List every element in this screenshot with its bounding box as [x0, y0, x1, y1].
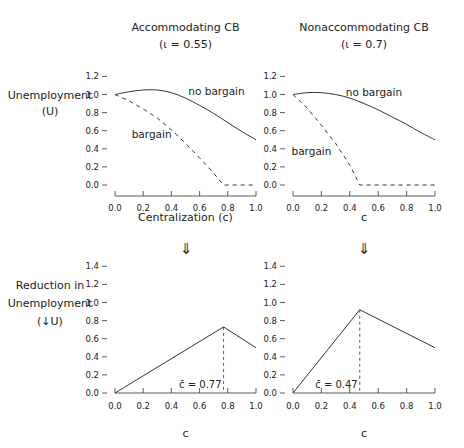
x-axis-label: c — [361, 427, 367, 440]
y-tick-label: 1.2 — [85, 71, 99, 81]
figure: Accommodating CB(ι = 0.55)0.00.20.40.60.… — [0, 0, 464, 448]
x-tick-label: 0.0 — [286, 401, 300, 411]
y-tick-label: 1.2 — [263, 71, 277, 81]
y-tick-label: 0.4 — [85, 144, 99, 154]
series-no-bargain — [293, 92, 435, 139]
y-tick-label: 0.8 — [263, 108, 277, 118]
x-tick-label: 0.6 — [371, 401, 385, 411]
y-tick-label: 0.2 — [263, 370, 277, 380]
y-tick-label: 1.2 — [85, 279, 99, 289]
series-label: no bargain — [346, 86, 402, 98]
y-tick-label: 0.8 — [263, 316, 277, 326]
y-tick-label: 0.0 — [85, 388, 99, 398]
y-tick-label: 0.8 — [85, 316, 99, 326]
y-tick-label: 0.6 — [263, 334, 277, 344]
y-tick-label: 0.4 — [85, 352, 99, 362]
row-label-top: (U) — [42, 105, 59, 118]
y-tick-label: 0.0 — [263, 180, 277, 190]
row-label-bottom: Reduction in — [16, 279, 85, 292]
x-axis-label: Centralization (c) — [138, 211, 233, 224]
y-tick-label: 0.6 — [85, 126, 99, 136]
x-tick-label: 0.2 — [315, 203, 329, 213]
x-tick-label: 1.0 — [249, 203, 263, 213]
y-tick-label: 1.2 — [263, 279, 277, 289]
x-tick-label: 0.4 — [343, 203, 357, 213]
y-tick-label: 0.2 — [85, 162, 99, 172]
y-tick-label: 1.0 — [263, 90, 277, 100]
y-tick-label: 0.0 — [85, 180, 99, 190]
x-tick-label: 0.8 — [400, 401, 414, 411]
x-tick-label: 0.0 — [108, 203, 122, 213]
x-tick-label: 1.0 — [428, 401, 442, 411]
series-label: no bargain — [188, 85, 244, 97]
y-tick-label: 1.0 — [263, 298, 277, 308]
x-tick-label: 1.0 — [428, 203, 442, 213]
down-arrow-icon: ⇓ — [180, 240, 193, 258]
row-label-bottom: Unemployment — [8, 297, 93, 310]
threshold-label: c̄ = 0.47 — [315, 379, 358, 390]
x-tick-label: 0.0 — [286, 203, 300, 213]
x-tick-label: 0.4 — [343, 401, 357, 411]
y-tick-label: 0.0 — [263, 388, 277, 398]
y-tick-label: 1.4 — [263, 261, 277, 271]
series-label: bargain — [292, 145, 332, 157]
chart-title: Accommodating CB — [131, 21, 239, 34]
x-tick-label: 0.2 — [315, 401, 329, 411]
row-label-top: Unemployment — [8, 89, 93, 102]
x-tick-label: 0.8 — [400, 203, 414, 213]
chart-subtitle: (ι = 0.55) — [159, 38, 212, 51]
x-tick-label: 0.6 — [371, 203, 385, 213]
series-bargain — [293, 95, 435, 186]
x-tick-label: 0.4 — [165, 401, 179, 411]
x-tick-label: 0.8 — [221, 401, 235, 411]
chart-subtitle: (ι = 0.7) — [341, 38, 387, 51]
y-tick-label: 0.2 — [85, 370, 99, 380]
x-tick-label: 0.0 — [108, 401, 122, 411]
y-tick-label: 0.4 — [263, 352, 277, 362]
y-tick-label: 0.4 — [263, 144, 277, 154]
x-tick-label: 1.0 — [249, 401, 263, 411]
chart-title: Nonaccommodating CB — [299, 21, 428, 34]
down-arrow-icon: ⇓ — [358, 240, 371, 258]
x-tick-label: 0.2 — [136, 401, 150, 411]
y-tick-label: 0.8 — [85, 108, 99, 118]
y-tick-label: 0.2 — [263, 162, 277, 172]
series-label: bargain — [132, 128, 172, 140]
y-tick-label: 0.6 — [263, 126, 277, 136]
y-tick-label: 0.6 — [85, 334, 99, 344]
x-axis-label: c — [361, 211, 367, 224]
threshold-label: c̄ = 0.77 — [179, 379, 222, 390]
x-tick-label: 0.6 — [193, 401, 207, 411]
y-tick-label: 1.4 — [85, 261, 99, 271]
row-label-bottom: (↓U) — [37, 315, 63, 328]
x-axis-label: c — [182, 427, 188, 440]
